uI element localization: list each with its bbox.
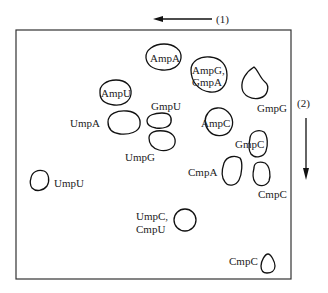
label-umpc-cmpu-line2: CmpU: [136, 223, 165, 235]
direction-1-arrow: [153, 16, 212, 22]
direction-1-label: (1): [216, 13, 229, 26]
direction-2-label: (2): [297, 97, 310, 110]
label-umpc-cmpu-line1: UmpC,: [136, 210, 168, 222]
label-umpa: UmpA: [70, 117, 100, 129]
spot-umpc-cmpu: [174, 209, 196, 231]
label-ampg-gmpa-line2: GmpA: [192, 76, 222, 88]
spot-umpg: [149, 131, 175, 151]
spot-cmpa: [222, 156, 242, 185]
label-gmpg: GmpG: [257, 102, 287, 114]
label-umpg: UmpG: [125, 151, 155, 163]
label-cmpc-lower: CmpC: [229, 255, 258, 267]
label-ampa: AmpA: [150, 52, 180, 64]
spot-gmpg: [242, 67, 268, 99]
label-ampg-gmpa-line1: AmpG,: [192, 64, 225, 76]
spot-gmpu: [147, 113, 171, 128]
direction-2-arrow: [303, 118, 309, 180]
label-ampu: AmpU: [101, 87, 131, 99]
spot-umpa: [108, 111, 140, 134]
label-gmpc: GmpC: [235, 138, 264, 150]
spot-umpu: [30, 170, 48, 190]
label-cmpa: CmpA: [188, 166, 217, 178]
label-cmpc-upper: CmpC: [258, 188, 287, 200]
chromatogram-diagram: (1) (2) AmpA AmpU AmpG, GmpA GmpG GmpU U…: [0, 0, 328, 293]
label-gmpu: GmpU: [151, 100, 181, 112]
spot-cmpc-upper: [253, 162, 270, 186]
label-umpu: UmpU: [54, 177, 84, 189]
spot-cmpc-lower: [261, 254, 275, 273]
label-ampc: AmpC: [201, 117, 230, 129]
